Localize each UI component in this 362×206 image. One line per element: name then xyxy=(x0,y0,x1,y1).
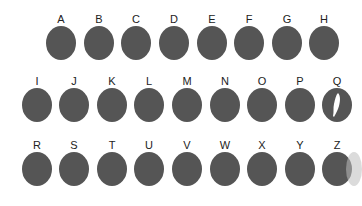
key-dot[interactable] xyxy=(309,26,339,60)
key-label: E xyxy=(196,12,228,26)
key-dot[interactable] xyxy=(285,152,315,186)
key-d[interactable]: D xyxy=(158,12,190,60)
key-dot[interactable] xyxy=(159,26,189,60)
key-p[interactable]: P xyxy=(284,74,316,122)
key-label: H xyxy=(308,12,340,26)
key-label: W xyxy=(209,138,241,152)
key-dot[interactable] xyxy=(172,152,202,186)
key-label: J xyxy=(58,74,90,88)
key-u[interactable]: U xyxy=(133,138,165,186)
key-dot[interactable] xyxy=(97,152,127,186)
offscreen-shape xyxy=(346,152,362,186)
key-label: U xyxy=(133,138,165,152)
key-dot[interactable] xyxy=(97,88,127,122)
key-label: C xyxy=(120,12,152,26)
feather-icon xyxy=(331,92,343,118)
key-label: M xyxy=(171,74,203,88)
key-label: K xyxy=(96,74,128,88)
key-label: B xyxy=(83,12,115,26)
key-l[interactable]: L xyxy=(133,74,165,122)
key-dot[interactable] xyxy=(59,88,89,122)
key-y[interactable]: Y xyxy=(284,138,316,186)
key-label: G xyxy=(271,12,303,26)
key-n[interactable]: N xyxy=(209,74,241,122)
key-dot[interactable] xyxy=(22,152,52,186)
key-t[interactable]: T xyxy=(96,138,128,186)
key-label: P xyxy=(284,74,316,88)
key-label: X xyxy=(246,138,278,152)
key-dot[interactable] xyxy=(210,152,240,186)
key-dot[interactable] xyxy=(272,26,302,60)
key-m[interactable]: M xyxy=(171,74,203,122)
key-label: T xyxy=(96,138,128,152)
key-a[interactable]: A xyxy=(45,12,77,60)
key-s[interactable]: S xyxy=(58,138,90,186)
key-f[interactable]: F xyxy=(233,12,265,60)
key-dot[interactable] xyxy=(247,152,277,186)
key-j[interactable]: J xyxy=(58,74,90,122)
key-v[interactable]: V xyxy=(171,138,203,186)
key-w[interactable]: W xyxy=(209,138,241,186)
key-label: Z xyxy=(321,138,353,152)
key-dot[interactable] xyxy=(121,26,151,60)
key-h[interactable]: H xyxy=(308,12,340,60)
key-dot[interactable] xyxy=(234,26,264,60)
key-dot[interactable] xyxy=(46,26,76,60)
key-label: A xyxy=(45,12,77,26)
key-label: Q xyxy=(321,74,353,88)
key-label: F xyxy=(233,12,265,26)
key-dot[interactable] xyxy=(285,88,315,122)
key-label: Y xyxy=(284,138,316,152)
key-dot[interactable] xyxy=(59,152,89,186)
key-k[interactable]: K xyxy=(96,74,128,122)
key-i[interactable]: I xyxy=(21,74,53,122)
key-q[interactable]: Q xyxy=(321,74,353,122)
key-g[interactable]: G xyxy=(271,12,303,60)
key-dot[interactable] xyxy=(134,88,164,122)
key-dot[interactable] xyxy=(172,88,202,122)
key-e[interactable]: E xyxy=(196,12,228,60)
key-dot[interactable] xyxy=(197,26,227,60)
key-dot[interactable] xyxy=(210,88,240,122)
key-c[interactable]: C xyxy=(120,12,152,60)
key-r[interactable]: R xyxy=(21,138,53,186)
key-label: I xyxy=(21,74,53,88)
key-label: L xyxy=(133,74,165,88)
key-label: S xyxy=(58,138,90,152)
key-label: R xyxy=(21,138,53,152)
key-x[interactable]: X xyxy=(246,138,278,186)
key-dot[interactable] xyxy=(22,88,52,122)
key-dot[interactable] xyxy=(322,88,352,122)
key-label: V xyxy=(171,138,203,152)
key-dot[interactable] xyxy=(134,152,164,186)
key-b[interactable]: B xyxy=(83,12,115,60)
key-dot[interactable] xyxy=(247,88,277,122)
key-dot[interactable] xyxy=(84,26,114,60)
key-label: D xyxy=(158,12,190,26)
key-label: O xyxy=(246,74,278,88)
key-o[interactable]: O xyxy=(246,74,278,122)
key-label: N xyxy=(209,74,241,88)
